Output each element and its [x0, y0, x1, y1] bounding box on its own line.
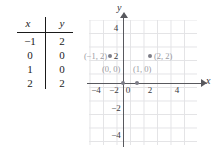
table-row: 2 2	[17, 77, 75, 91]
data-point-0-0	[121, 81, 125, 85]
cell-y: 2	[50, 77, 74, 89]
cell-x: 0	[18, 49, 42, 61]
table-row: 1 0	[17, 63, 75, 77]
value-table: x y −1 2 0 0 1 0 2	[0, 0, 92, 154]
figure-root: x y −1 2 0 0 1 0 2	[0, 0, 221, 154]
data-point-2-2	[148, 54, 152, 58]
table-header-row: x y	[17, 17, 75, 32]
table-row: 0 0	[17, 49, 75, 63]
point-label-2-2: (2, 2)	[154, 51, 172, 61]
point-label-0-0: (0, 0)	[102, 64, 120, 74]
x-axis-line	[87, 83, 203, 84]
y-axis-label: y	[117, 2, 121, 13]
cell-x: 2	[18, 77, 42, 89]
table-body: −1 2 0 0 1 0 2 2	[17, 35, 75, 91]
point-label-1-0: (1, 0)	[133, 64, 151, 74]
cell-y: 0	[50, 63, 74, 75]
cell-y: 0	[50, 49, 74, 61]
x-tick-0: 0	[119, 85, 137, 95]
table-row: −1 2	[17, 35, 75, 49]
column-header-y: y	[51, 17, 73, 29]
y-tick--2: −2	[107, 103, 125, 113]
y-tick--4: −4	[107, 130, 125, 140]
x-tick-4: 4	[168, 85, 186, 95]
cell-x: −1	[18, 35, 42, 47]
x-tick--4: −4	[87, 85, 105, 95]
cell-y: 2	[50, 35, 74, 47]
x-tick-2: 2	[141, 85, 159, 95]
x-axis-label: x	[206, 75, 210, 86]
table-grid: x y −1 2 0 0 1 0 2	[17, 17, 75, 32]
column-header-x: x	[17, 17, 39, 29]
y-tick-4: 4	[107, 23, 125, 33]
data-point-1-0	[135, 81, 139, 85]
data-point-neg1-2	[108, 54, 112, 58]
cell-x: 1	[18, 63, 42, 75]
point-label-neg1-2: (−1, 2)	[84, 51, 107, 61]
coordinate-plane: x y −4 −2 0 2 4 4 2 −2 −4 (−1, 2) (0, 0)…	[89, 0, 221, 154]
